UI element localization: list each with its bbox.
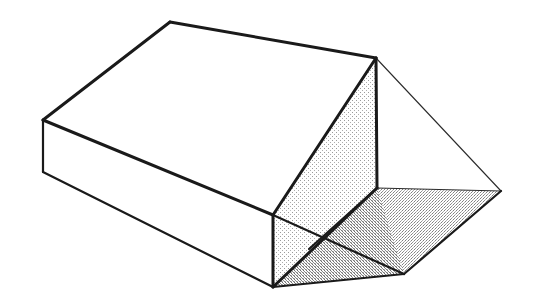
isometric-box-wedge-figure: Isometric line drawing of a rectangular …	[0, 0, 535, 304]
ridge-vertical-edge	[376, 58, 377, 188]
